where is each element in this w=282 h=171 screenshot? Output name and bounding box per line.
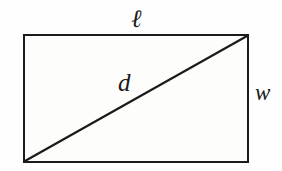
diagonal-label: d	[118, 70, 131, 95]
length-label: ℓ	[131, 6, 141, 31]
width-label: w	[255, 81, 270, 104]
geometry-figure: ℓ d w	[0, 0, 282, 171]
